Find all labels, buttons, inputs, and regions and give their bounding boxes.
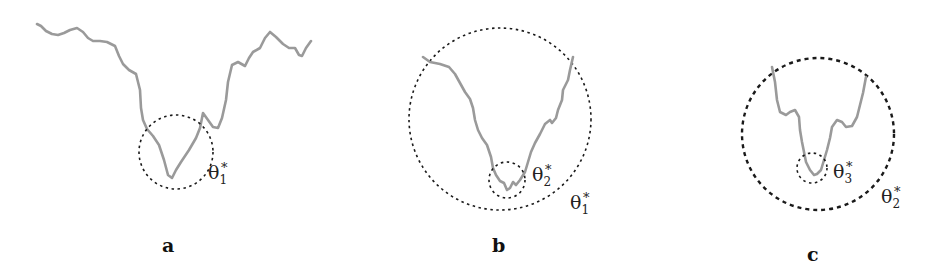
panel-label-c: c <box>807 243 819 265</box>
panel-label-b: b <box>492 234 505 256</box>
dashed-circle-theta1-b <box>409 28 591 210</box>
annotation-theta1-b: θ1* <box>570 191 590 216</box>
annotation-theta2-b: θ2* <box>532 163 552 188</box>
panel-label-a: a <box>162 234 174 256</box>
annotation-theta3-c: θ3* <box>833 160 853 185</box>
annotation-theta2-c: θ2* <box>881 185 901 210</box>
dashed-circle-theta1-a <box>139 115 213 189</box>
loss-landscape-curve-a <box>37 24 311 178</box>
diagram-canvas <box>0 0 931 272</box>
annotation-theta1-a: θ1* <box>208 161 228 186</box>
dashed-circle-theta2-c <box>742 58 894 210</box>
